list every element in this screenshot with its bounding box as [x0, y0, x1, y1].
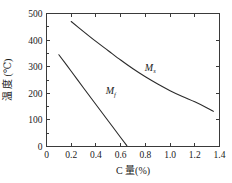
y-tick-label: 400 [28, 36, 43, 46]
curve-Ms [71, 21, 213, 111]
y-axis-tick-labels: 0100200300400500 [28, 9, 43, 152]
x-tick-label: 0.2 [65, 150, 77, 160]
y-axis-title-text: 温 度 (℃) [1, 59, 14, 102]
tick-marks [47, 14, 220, 147]
y-tick-label: 200 [28, 89, 43, 99]
y-tick-label: 100 [28, 115, 43, 125]
x-axis-title-text: C 量(%) [116, 165, 150, 177]
x-axis-tick-labels: 00.20.40.60.81.01.21.4 [44, 150, 226, 160]
curve-label-Mf: Mf [105, 85, 117, 97]
curve-label-Ms: Ms [144, 62, 156, 74]
x-tick-label: 1.0 [164, 150, 176, 160]
x-tick-label: 0.6 [115, 150, 127, 160]
chart-figure: 00.20.40.60.81.01.21.4 0100200300400500 … [0, 0, 232, 183]
y-tick-label: 0 [38, 142, 43, 152]
y-tick-label: 300 [28, 62, 43, 72]
chart-canvas: 00.20.40.60.81.01.21.4 0100200300400500 … [0, 0, 232, 183]
curve-Mf [59, 55, 127, 146]
x-tick-label: 1.2 [189, 150, 201, 160]
y-axis-title: 温 度 (℃) [1, 59, 14, 102]
y-tick-label: 500 [28, 9, 43, 19]
data-curves [59, 21, 213, 145]
x-axis-title: C 量(%) [116, 165, 150, 177]
x-tick-label: 1.4 [214, 150, 226, 160]
x-tick-label: 0.4 [90, 150, 102, 160]
plot-frame [47, 14, 220, 147]
x-tick-label: 0.8 [139, 150, 151, 160]
x-tick-label: 0 [44, 150, 49, 160]
